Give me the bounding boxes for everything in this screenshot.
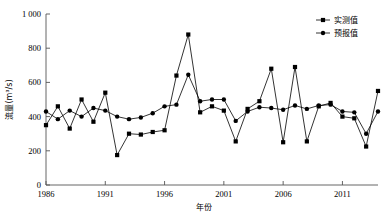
data-point-circle bbox=[245, 109, 249, 113]
data-point-circle bbox=[174, 102, 178, 106]
data-point-square bbox=[115, 153, 119, 157]
data-point-circle bbox=[127, 117, 131, 121]
data-point-circle bbox=[317, 103, 321, 107]
data-point-square bbox=[376, 89, 380, 93]
x-tick-label: 1996 bbox=[156, 189, 173, 199]
data-point-square bbox=[162, 128, 166, 132]
series-line-circle bbox=[46, 75, 378, 134]
data-point-circle bbox=[281, 108, 285, 112]
series-line-square bbox=[46, 35, 378, 156]
data-point-square bbox=[79, 97, 83, 101]
data-point-square bbox=[198, 110, 202, 114]
data-point-circle bbox=[293, 103, 297, 107]
data-point-circle bbox=[257, 105, 261, 109]
data-point-circle bbox=[305, 107, 309, 111]
data-point-circle bbox=[68, 108, 72, 112]
y-tick-label: 600 bbox=[28, 77, 41, 87]
y-axis-label: 流量(m³/s) bbox=[4, 79, 14, 119]
data-point-circle bbox=[44, 109, 48, 113]
data-point-circle bbox=[364, 132, 368, 136]
data-point-square bbox=[174, 73, 178, 77]
legend-marker-circle bbox=[321, 31, 325, 35]
data-point-circle bbox=[186, 73, 190, 77]
y-tick-label: 1 000 bbox=[22, 9, 41, 19]
data-point-square bbox=[269, 67, 273, 71]
data-point-square bbox=[340, 115, 344, 119]
data-point-circle bbox=[139, 115, 143, 119]
flow-comparison-chart: 02004006008001 0001986199119962001200620… bbox=[0, 0, 382, 222]
data-point-circle bbox=[56, 117, 60, 121]
data-point-circle bbox=[115, 114, 119, 118]
data-point-square bbox=[186, 32, 190, 36]
data-point-circle bbox=[198, 99, 202, 103]
data-point-square bbox=[44, 123, 48, 127]
data-point-circle bbox=[352, 110, 356, 114]
x-tick-label: 2006 bbox=[275, 189, 292, 199]
legend-label-1: 预报值 bbox=[334, 28, 358, 38]
x-tick-label: 1986 bbox=[38, 189, 55, 199]
data-point-circle bbox=[269, 106, 273, 110]
data-point-circle bbox=[151, 111, 155, 115]
y-tick-label: 400 bbox=[28, 112, 41, 122]
data-point-square bbox=[56, 104, 60, 108]
data-point-circle bbox=[340, 109, 344, 113]
data-point-square bbox=[257, 99, 261, 103]
chart-svg: 02004006008001 0001986199119962001200620… bbox=[0, 0, 382, 222]
y-tick-label: 200 bbox=[28, 146, 41, 156]
data-point-circle bbox=[91, 106, 95, 110]
data-point-square bbox=[210, 104, 214, 108]
data-point-circle bbox=[376, 109, 380, 113]
x-tick-label: 2001 bbox=[215, 189, 232, 199]
y-tick-label: 800 bbox=[28, 43, 41, 53]
data-point-square bbox=[127, 132, 131, 136]
legend-label-0: 实测值 bbox=[334, 15, 358, 25]
data-point-circle bbox=[234, 119, 238, 123]
data-point-circle bbox=[79, 114, 83, 118]
data-point-circle bbox=[162, 104, 166, 108]
data-point-circle bbox=[210, 97, 214, 101]
data-point-square bbox=[352, 116, 356, 120]
data-point-square bbox=[68, 126, 72, 130]
x-tick-label: 1991 bbox=[97, 189, 114, 199]
data-point-square bbox=[151, 130, 155, 134]
legend-marker-square bbox=[321, 18, 325, 22]
x-tick-label: 2011 bbox=[334, 189, 351, 199]
data-point-square bbox=[103, 91, 107, 95]
data-point-square bbox=[222, 109, 226, 113]
data-point-square bbox=[364, 144, 368, 148]
data-point-circle bbox=[328, 102, 332, 106]
data-point-square bbox=[293, 65, 297, 69]
data-point-square bbox=[281, 140, 285, 144]
data-point-square bbox=[305, 139, 309, 143]
data-point-square bbox=[234, 139, 238, 143]
data-point-circle bbox=[103, 108, 107, 112]
data-point-square bbox=[139, 132, 143, 136]
x-axis-label: 年份 bbox=[196, 202, 212, 212]
data-point-square bbox=[91, 120, 95, 124]
data-point-circle bbox=[222, 97, 226, 101]
